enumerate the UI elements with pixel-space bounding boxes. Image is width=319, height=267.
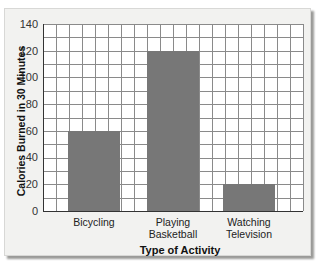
x-tick-label-basketball: Playing Basketball bbox=[133, 216, 213, 240]
grid-line-vertical bbox=[290, 24, 291, 211]
grid-line-vertical bbox=[199, 24, 200, 211]
x-axis-line bbox=[43, 211, 303, 212]
y-axis-line bbox=[43, 24, 44, 212]
x-tick-label-television: Watching Television bbox=[209, 216, 289, 240]
x-tick-line: Bicycling bbox=[54, 216, 134, 228]
grid-line-vertical bbox=[56, 24, 57, 211]
grid-line-vertical bbox=[251, 24, 252, 211]
x-axis-title: Type of Activity bbox=[110, 244, 250, 256]
bar-bicycling bbox=[68, 131, 120, 211]
x-tick-label-bicycling: Bicycling bbox=[54, 216, 134, 228]
grid-line-vertical bbox=[264, 24, 265, 211]
grid-line-vertical bbox=[303, 24, 304, 211]
x-tick-line: Playing bbox=[133, 216, 213, 228]
bar-playing-basketball bbox=[147, 51, 199, 211]
bar-watching-television bbox=[223, 184, 275, 211]
x-tick-line: Watching bbox=[209, 216, 289, 228]
grid-line-vertical bbox=[121, 24, 122, 211]
x-tick-line: Television bbox=[209, 228, 289, 240]
grid-line-vertical bbox=[277, 24, 278, 211]
y-tick-label: 0 bbox=[8, 205, 38, 217]
grid-line-vertical bbox=[225, 24, 226, 211]
grid-line-vertical bbox=[134, 24, 135, 211]
grid-line-vertical bbox=[212, 24, 213, 211]
y-tick-label: 140 bbox=[8, 18, 38, 30]
grid-line-vertical bbox=[238, 24, 239, 211]
y-axis-title: Calories Burned in 30 Minutes bbox=[15, 36, 27, 206]
x-tick-line: Basketball bbox=[133, 228, 213, 240]
